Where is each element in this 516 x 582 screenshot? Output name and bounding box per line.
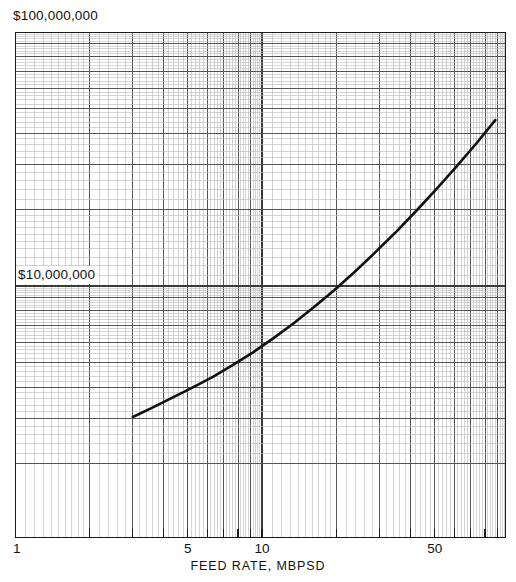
log-log-chart-figure: $100,000,000 $10,000,000 151050 FEED RAT… (0, 0, 516, 582)
x-tick-label-1: 1 (13, 541, 21, 556)
x-tick-label-50: 50 (427, 541, 442, 556)
y-axis-mid-value-label: $10,000,000 (16, 266, 98, 284)
plot-area (15, 32, 506, 538)
x-tick-label-10: 10 (254, 541, 269, 556)
cost-curve (15, 32, 506, 538)
y-axis-top-value-label: $100,000,000 (13, 8, 98, 23)
x-axis-title: FEED RATE, MBPSD (0, 559, 516, 573)
x-tick-label-5: 5 (184, 541, 192, 556)
